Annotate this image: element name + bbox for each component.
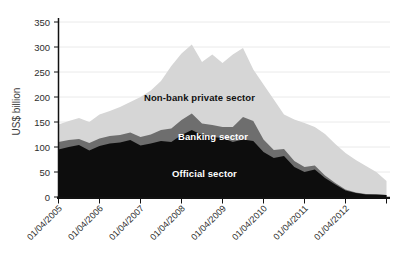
y-tick-label-0: 0 [45,192,50,203]
area-label-official-sector: Official sector [172,168,237,179]
y-tick-label-300: 300 [34,42,50,53]
y-tick-label-100: 100 [34,142,50,153]
y-tick-label-350: 350 [34,17,50,28]
x-tick-label-01-04-2008: 01/04/2008 [148,203,187,242]
y-tick-label-200: 200 [34,92,50,103]
y-tick-label-150: 150 [34,117,50,128]
y-tick-label-250: 250 [34,67,50,78]
area-label-banking-sector: Banking sector [178,131,248,142]
area-label-nonbank-private-sector: Non-bank private sector [144,92,255,103]
x-tick-label-01-04-2006: 01/04/2006 [66,203,105,242]
x-tick-label-01-04-2010: 01/04/2010 [230,203,269,242]
x-tick-label-01-04-2009: 01/04/2009 [189,203,228,242]
y-tick-label-50: 50 [39,167,50,178]
chart-canvas: 05010015020025030035001/04/200501/04/200… [0,0,405,264]
x-tick-label-01-04-2005: 01/04/2005 [25,203,64,242]
x-tick-label-01-04-2011: 01/04/2011 [271,203,309,241]
x-tick-label-01-04-2012: 01/04/2012 [312,203,351,242]
x-tick-label-01-04-2007: 01/04/2007 [107,203,146,242]
y-axis-title: US$ billion [11,76,22,148]
